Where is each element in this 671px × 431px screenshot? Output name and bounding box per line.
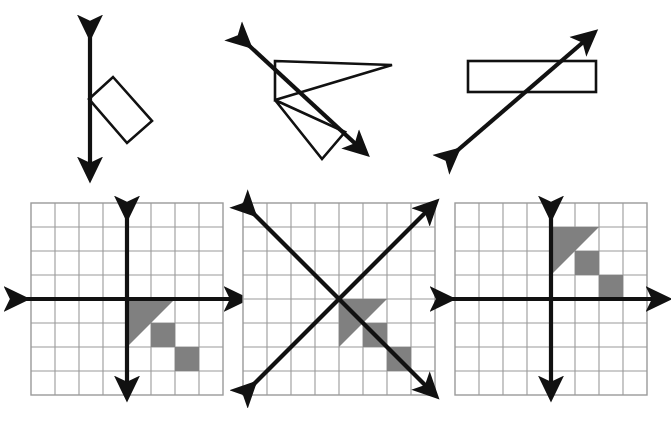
shape-square-middle <box>575 251 599 275</box>
grid-panel-diagonal-axes <box>243 203 435 395</box>
diagonal-up-right-double-arrow-icon <box>451 38 588 156</box>
top-figure-vertical-line-with-tilted-rectangle <box>89 28 152 170</box>
flattened-rectangle-lower-sliver <box>275 100 345 159</box>
shape-square-lower-right <box>175 347 199 371</box>
shape-square-middle <box>151 323 175 347</box>
worksheet-figure-canvas <box>0 0 671 431</box>
figure-stage <box>0 0 671 431</box>
tilted-rectangle-shape <box>89 77 152 143</box>
grid-panel-shape-above-axis <box>443 203 659 395</box>
grid-panel-vertical-horizontal-axes <box>17 203 237 395</box>
flattened-rectangle-upper-sliver <box>275 61 392 100</box>
top-figure-horizontal-rectangle-with-diagonal-arrow <box>451 38 596 156</box>
top-figure-diagonal-arrow-with-flattened-rectangle <box>243 40 392 159</box>
shape-square-lower-right <box>599 275 623 299</box>
